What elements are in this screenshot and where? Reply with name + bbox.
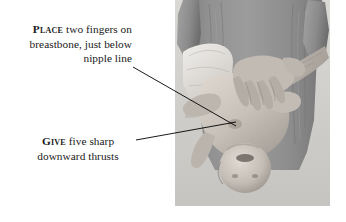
infant-eye-left <box>232 174 238 178</box>
caption-give-line-1: Give five sharp <box>22 134 134 149</box>
caption-place-line-3: nipple line <box>8 51 132 66</box>
infant-head <box>219 143 271 193</box>
caption-place-lead-word: Place <box>33 23 63 35</box>
infant-mouth <box>236 154 254 162</box>
caption-place-text-1: two fingers on <box>66 23 132 35</box>
caption-give: Give five sharp downward thrusts <box>22 134 134 163</box>
photo-graphic <box>175 0 330 206</box>
photo-infant-chest-thrust <box>175 0 330 206</box>
caption-place-line-1: Place two fingers on <box>8 22 132 37</box>
caption-place: Place two fingers on breastbone, just be… <box>8 22 132 66</box>
infant-eye-right <box>252 174 258 178</box>
figure-infant-chest-thrust: Place two fingers on breastbone, just be… <box>0 0 346 222</box>
caption-give-line-2: downward thrusts <box>22 149 134 164</box>
caption-give-lead-word: Give <box>42 135 66 147</box>
chest-contact-point <box>228 119 242 129</box>
caption-place-line-2: breastbone, just below <box>8 37 132 52</box>
caption-give-text-1: five sharp <box>69 135 114 147</box>
